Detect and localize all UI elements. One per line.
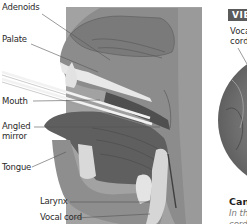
label-palate: Palate [2, 34, 27, 44]
caption-text: In this cord is [229, 208, 247, 224]
label-adenoids: Adenoids [2, 2, 39, 12]
caption-line-1: In this [229, 208, 247, 219]
label-tongue: Tongue [2, 162, 31, 172]
label-angled-mirror-2: mirror [2, 131, 27, 141]
label-vocal-cord: Vocal cord [40, 212, 82, 222]
throat-cross-section-diagram: Adenoids Palate Mouth Angled mirror Tong… [0, 0, 247, 224]
label-mouth: Mouth [2, 96, 28, 106]
label-angled-mirror-1: Angled [2, 121, 30, 131]
anatomy-illustration [0, 0, 247, 224]
view-badge: VIEW [228, 9, 247, 21]
caption-title: Cancer [229, 196, 247, 207]
label-larynx: Larynx [40, 196, 68, 206]
caption-line-2: cord is [229, 219, 247, 224]
view-vocal-cord-label: Vocal cord [230, 26, 247, 46]
